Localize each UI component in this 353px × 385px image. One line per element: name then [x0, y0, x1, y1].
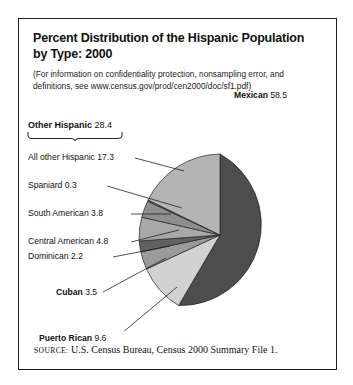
label-all-other-hispanic-name: All other Hispanic	[28, 152, 95, 162]
page-title-line-2: by Type: 2000	[33, 47, 323, 63]
other-hispanic-bracket	[28, 132, 122, 141]
source-text: U.S. Census Bureau, Census 2000 Summary …	[71, 344, 277, 355]
page-title: Percent Distribution of the Hispanic Pop…	[33, 31, 323, 62]
label-mexican-name: Mexican	[234, 90, 268, 100]
page-title-line-1: Percent Distribution of the Hispanic Pop…	[33, 31, 323, 47]
label-south-american-name: South American	[28, 208, 89, 218]
label-spaniard-name: Spaniard	[28, 180, 62, 190]
label-central-american: Central American 4.8	[28, 236, 108, 246]
figure-panel: Percent Distribution of the Hispanic Pop…	[18, 18, 337, 370]
label-mexican: Mexican 58.5	[234, 90, 287, 100]
label-puerto-rican-value: 9.6	[94, 333, 106, 343]
label-all-other-hispanic-value: 17.3	[97, 152, 114, 162]
label-central-american-value: 4.8	[96, 236, 108, 246]
pie-chart: Other Hispanic 28.4 All other Hispanic 1…	[19, 91, 338, 331]
label-other-hispanic-group-name: Other Hispanic	[28, 120, 92, 130]
label-dominican-value: 2.2	[71, 251, 83, 261]
label-other-hispanic-group: Other Hispanic 28.4	[28, 120, 112, 130]
label-cuban-value: 3.5	[85, 287, 97, 297]
label-south-american-value: 3.8	[91, 208, 103, 218]
pie-slices	[139, 154, 261, 306]
label-cuban: Cuban 3.5	[56, 287, 97, 297]
label-puerto-rican: Puerto Rican 9.6	[39, 333, 106, 343]
leader-line-all-other-hispanic	[135, 158, 184, 171]
label-cuban-name: Cuban	[56, 287, 83, 297]
label-central-american-name: Central American	[28, 236, 94, 246]
source-label: SOURCE:	[34, 346, 69, 355]
label-other-hispanic-group-value: 28.4	[95, 120, 113, 130]
label-south-american: South American 3.8	[28, 208, 103, 218]
figure-note-line-1: (For information on confidentiality prot…	[33, 69, 318, 81]
label-all-other-hispanic: All other Hispanic 17.3	[28, 152, 114, 162]
label-dominican-name: Dominican	[28, 251, 69, 261]
source-note: SOURCE: U.S. Census Bureau, Census 2000 …	[34, 344, 329, 355]
label-mexican-value: 58.5	[270, 90, 287, 100]
label-puerto-rican-name: Puerto Rican	[39, 333, 92, 343]
label-dominican: Dominican 2.2	[28, 251, 83, 261]
label-spaniard: Spaniard 0.3	[28, 180, 77, 190]
label-spaniard-value: 0.3	[65, 180, 77, 190]
